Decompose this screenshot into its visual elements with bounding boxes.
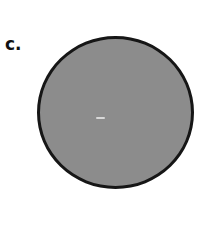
center-highlight <box>96 117 105 119</box>
gray-circle <box>37 36 194 189</box>
panel-label: c. <box>5 34 22 54</box>
